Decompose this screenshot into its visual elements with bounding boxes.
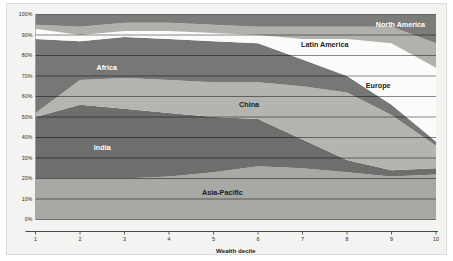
y-axis-tick-label: 20% (22, 175, 33, 181)
y-axis-tick-label: 100% (19, 11, 33, 17)
series-label-north-america: North America (376, 20, 426, 29)
series-label-india: India (94, 143, 112, 152)
y-axis-tick-label: 0% (25, 216, 33, 222)
stacked-area-chart: 0%10%20%30%40%50%60%70%80%90%100%1234567… (0, 0, 453, 261)
y-axis-tick-label: 70% (22, 73, 33, 79)
x-axis-tick-label: 8 (346, 236, 349, 242)
chart-container: 0%10%20%30%40%50%60%70%80%90%100%1234567… (0, 0, 453, 261)
x-axis-tick-label: 2 (79, 236, 82, 242)
x-axis-tick-label: 5 (212, 236, 215, 242)
series-label-latin-america: Latin America (301, 40, 349, 49)
x-axis-tick-label: 4 (168, 236, 171, 242)
series-label-europe: Europe (366, 81, 391, 90)
y-axis-tick-label: 30% (22, 155, 33, 161)
x-axis-tick-label: 10 (433, 236, 439, 242)
y-axis-tick-label: 80% (22, 52, 33, 58)
x-axis-tick-label: 3 (123, 236, 126, 242)
y-axis-tick-label: 60% (22, 93, 33, 99)
x-axis-tick-label: 6 (257, 236, 260, 242)
y-axis-tick-label: 10% (22, 196, 33, 202)
y-axis-tick-label: 90% (22, 32, 33, 38)
y-axis-tick-label: 40% (22, 134, 33, 140)
x-axis-tick-label: 9 (390, 236, 393, 242)
x-axis-tick-label: 1 (34, 236, 37, 242)
series-label-asia-pacific: Asia-Pacific (202, 188, 243, 197)
series-label-africa: Africa (97, 63, 118, 72)
series-label-china: China (239, 100, 260, 109)
x-axis-title: Wealth decile (216, 247, 256, 254)
x-axis-tick-label: 7 (301, 236, 304, 242)
y-axis-tick-label: 50% (22, 114, 33, 120)
